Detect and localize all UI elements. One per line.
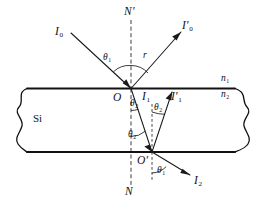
incident-ray-label: I0 (55, 26, 63, 39)
angle-r-reflected-label: r (143, 51, 147, 61)
optics-diagram-figure: N′ N I0 I′0 I1 I′1 I2 O O′ θ1 r θ2 θ2 (0, 0, 267, 206)
internal-reflected-ray-line (152, 92, 172, 152)
refractive-index-n1-label: n1 (221, 74, 229, 85)
angle-theta1-transmitted-label: θ1 (157, 166, 165, 177)
angle-arc-theta1-incident (113, 65, 131, 71)
upper-normal-label: N′ (124, 6, 134, 18)
refracted-internal-ray-label: I1 (142, 91, 150, 104)
angle-theta2-at-o-label: θ2 (130, 99, 138, 110)
reflected-ray-line (131, 32, 181, 89)
refracted-internal-ray-arrowhead (144, 145, 152, 153)
reflected-ray-arrowhead (172, 32, 181, 41)
transmitted-ray-label: I2 (194, 175, 202, 188)
refractive-index-n2-label: n2 (221, 90, 229, 101)
material-label-si: Si (33, 113, 42, 124)
slab-right-break-edge (235, 89, 249, 153)
point-o-label: O (113, 92, 121, 104)
reflected-ray-label: I′0 (182, 20, 193, 33)
incident-ray-line (71, 33, 131, 89)
angle-theta2-at-o-prime-label: θ2 (128, 130, 136, 141)
point-o-prime-label: O′ (137, 155, 148, 167)
angle-theta1-incident-label: θ1 (103, 53, 111, 64)
slab-left-break-edge (17, 89, 27, 153)
angle-theta2-internal-reflected-label: θ2 (154, 103, 162, 114)
lower-normal-label: N (125, 186, 133, 198)
incident-ray-arrowhead (123, 79, 131, 88)
internal-reflected-ray-label: I′1 (171, 91, 182, 104)
